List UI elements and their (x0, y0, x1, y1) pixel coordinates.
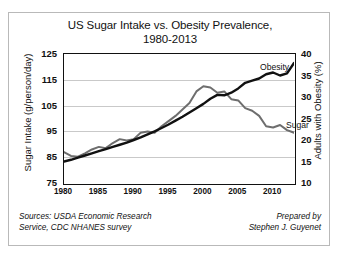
x-tick: 2010 (263, 187, 281, 196)
sources-line1: Sources: USDA Economic Research (19, 212, 152, 221)
sources-line2: Service, CDC NHANES survey (19, 223, 131, 232)
y-tick-left: 95 (27, 125, 57, 136)
y-tick-right: 35 (301, 69, 327, 80)
x-tick: 1985 (89, 187, 107, 196)
plot-area-wrapper: Sugar Intake (g/person/day) Adults with … (9, 51, 331, 201)
y-tick-right: 40 (301, 48, 327, 59)
chart-title-line1: US Sugar Intake vs. Obesity Prevalence, (68, 19, 272, 31)
y-tick-right: 30 (301, 91, 327, 102)
prepared-line2: Stephen J. Guyenet (249, 223, 321, 232)
line-series-sugar (64, 86, 294, 156)
chart-footer: Sources: USDA Economic Research Service,… (9, 209, 331, 245)
chart-title: US Sugar Intake vs. Obesity Prevalence, … (9, 18, 331, 46)
x-tick: 1980 (54, 187, 72, 196)
y-tick-left: 75 (27, 177, 57, 188)
series-lines (64, 54, 294, 183)
chart-figure: US Sugar Intake vs. Obesity Prevalence, … (8, 12, 330, 246)
y-tick-left: 115 (27, 73, 57, 84)
prepared-by-note: Prepared by Stephen J. Guyenet (181, 211, 321, 233)
prepared-line1: Prepared by (276, 212, 321, 221)
x-tick: 2000 (193, 187, 211, 196)
x-tick: 1990 (124, 187, 142, 196)
x-tick: 2005 (228, 187, 246, 196)
y-tick-left: 85 (27, 151, 57, 162)
y-tick-right: 15 (301, 155, 327, 166)
series-label-sugar: Sugar (286, 120, 309, 130)
y-tick-left: 125 (27, 48, 57, 59)
sources-note: Sources: USDA Economic Research Service,… (19, 211, 199, 233)
x-tick: 1995 (158, 187, 176, 196)
plot-frame: Obesity Sugar (63, 53, 296, 185)
series-label-obesity: Obesity (260, 62, 289, 72)
chart-title-line2: 1980-2013 (9, 32, 331, 46)
y-tick-right: 20 (301, 134, 327, 145)
y-tick-left: 105 (27, 99, 57, 110)
y-tick-right: 10 (301, 177, 327, 188)
